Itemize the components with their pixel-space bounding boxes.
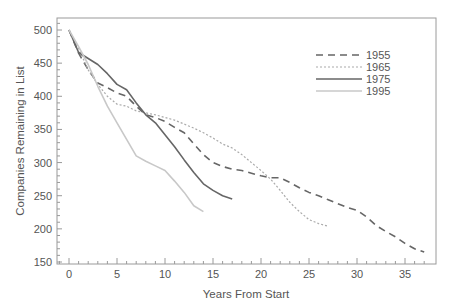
- x-tick-label: 25: [303, 268, 315, 280]
- x-tick-label: 10: [159, 268, 171, 280]
- x-axis-title: Years From Start: [203, 288, 290, 300]
- y-tick-label: 400: [34, 90, 52, 102]
- x-tick-label: 20: [255, 268, 267, 280]
- legend-label-1965: 1965: [366, 61, 390, 73]
- y-axis-title: Companies Remaining in List: [14, 65, 26, 215]
- y-tick-label: 500: [34, 24, 52, 36]
- y-tick-label: 250: [34, 190, 52, 202]
- y-tick-label: 350: [34, 123, 52, 135]
- x-tick-label: 35: [399, 268, 411, 280]
- legend-label-1975: 1975: [366, 73, 390, 85]
- legend-label-1955: 1955: [366, 49, 390, 61]
- y-tick-label: 300: [34, 157, 52, 169]
- y-tick-label: 450: [34, 57, 52, 69]
- y-tick-label: 200: [34, 223, 52, 235]
- line-chart: 150200250300350400450500 05101520253035 …: [0, 0, 454, 303]
- y-tick-label: 150: [34, 256, 52, 268]
- legend-label-1995: 1995: [366, 85, 390, 97]
- x-tick-label: 0: [66, 268, 72, 280]
- x-tick-label: 15: [207, 268, 219, 280]
- x-tick-label: 5: [114, 268, 120, 280]
- x-tick-label: 30: [351, 268, 363, 280]
